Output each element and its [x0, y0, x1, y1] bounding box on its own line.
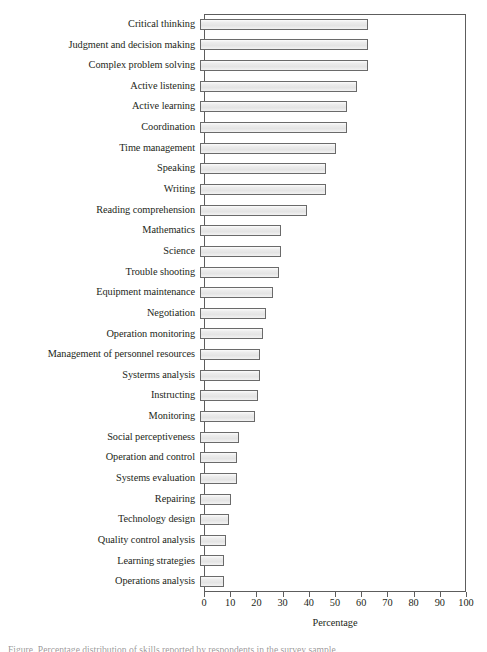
bar: [200, 60, 368, 71]
bar-track: [200, 138, 487, 159]
chart-row: Systerms analysis: [0, 365, 487, 386]
bar: [200, 576, 224, 587]
chart-row: Critical thinking: [0, 14, 487, 35]
bar-track: [200, 262, 487, 283]
chart-row: Operations analysis: [0, 571, 487, 592]
bar-track: [200, 303, 487, 324]
category-label: Science: [0, 246, 200, 257]
bar-track: [200, 468, 487, 489]
bar-track: [200, 14, 487, 35]
bar-track: [200, 406, 487, 427]
chart-row: Technology design: [0, 509, 487, 530]
category-label: Management of personnel resources: [0, 349, 200, 360]
chart-row: Repairing: [0, 489, 487, 510]
category-label: Operation and control: [0, 452, 200, 463]
bar-track: [200, 35, 487, 56]
category-label: Coordination: [0, 122, 200, 133]
chart-row: Coordination: [0, 117, 487, 138]
chart-row: Writing: [0, 179, 487, 200]
bar-track: [200, 179, 487, 200]
bar: [200, 308, 266, 319]
category-label: Trouble shooting: [0, 267, 200, 278]
x-tick-label: 70: [382, 598, 392, 608]
chart-row: Equipment maintenance: [0, 282, 487, 303]
category-label: Time management: [0, 143, 200, 154]
category-label: Repairing: [0, 494, 200, 505]
bar-track: [200, 97, 487, 118]
bar: [200, 473, 237, 484]
bar-track: [200, 447, 487, 468]
bar-track: [200, 551, 487, 572]
category-label: Mathematics: [0, 225, 200, 236]
bar: [200, 101, 347, 112]
category-label: Systerms analysis: [0, 370, 200, 381]
x-axis-title: Percentage: [204, 617, 466, 628]
chart-row: Systems evaluation: [0, 468, 487, 489]
category-label: Judgment and decision making: [0, 40, 200, 51]
category-label: Complex problem solving: [0, 60, 200, 71]
chart-row: Instructing: [0, 386, 487, 407]
x-tick-label: 80: [408, 598, 418, 608]
chart-row: Active listening: [0, 76, 487, 97]
bar: [200, 555, 224, 566]
bar-track: [200, 55, 487, 76]
chart-row: Social perceptiveness: [0, 427, 487, 448]
bar-chart-figure: Critical thinkingJudgment and decision m…: [0, 0, 487, 652]
bar-track: [200, 509, 487, 530]
chart-row: Quality control analysis: [0, 530, 487, 551]
bar: [200, 514, 229, 525]
x-tick-label: 100: [458, 598, 473, 608]
bar: [200, 432, 239, 443]
bar-track: [200, 324, 487, 345]
category-label: Learning strategies: [0, 556, 200, 567]
figure-caption: Figure. Percentage distribution of skill…: [0, 644, 487, 652]
bar: [200, 452, 237, 463]
bar: [200, 370, 260, 381]
bar: [200, 163, 326, 174]
x-tick-label: 50: [330, 598, 340, 608]
bar-track: [200, 344, 487, 365]
bar-track: [200, 427, 487, 448]
chart-row: Science: [0, 241, 487, 262]
x-tick-label: 90: [435, 598, 445, 608]
category-label: Monitoring: [0, 411, 200, 422]
chart-row: Judgment and decision making: [0, 35, 487, 56]
bar: [200, 205, 307, 216]
bar: [200, 267, 279, 278]
chart-row: Speaking: [0, 158, 487, 179]
bar: [200, 328, 263, 339]
chart-row: Operation monitoring: [0, 324, 487, 345]
x-tick-label: 10: [225, 598, 235, 608]
chart-row: Management of personnel resources: [0, 344, 487, 365]
bar-track: [200, 241, 487, 262]
x-tick-label: 40: [304, 598, 314, 608]
bar-track: [200, 76, 487, 97]
chart-row: Active learning: [0, 97, 487, 118]
bar-track: [200, 365, 487, 386]
category-label: Reading comprehension: [0, 205, 200, 216]
chart-row: Negotiation: [0, 303, 487, 324]
bar-track: [200, 530, 487, 551]
category-label: Quality control analysis: [0, 535, 200, 546]
category-label: Writing: [0, 184, 200, 195]
x-tick-label: 60: [356, 598, 366, 608]
category-label: Negotiation: [0, 308, 200, 319]
chart-row: Learning strategies: [0, 551, 487, 572]
category-label: Systems evaluation: [0, 473, 200, 484]
bar: [200, 287, 273, 298]
chart-row: Operation and control: [0, 447, 487, 468]
chart-row: Mathematics: [0, 220, 487, 241]
chart-row: Time management: [0, 138, 487, 159]
bar-track: [200, 158, 487, 179]
bar: [200, 535, 226, 546]
category-label: Operation monitoring: [0, 329, 200, 340]
bar: [200, 81, 357, 92]
category-label: Critical thinking: [0, 19, 200, 30]
bar: [200, 349, 260, 360]
bar: [200, 19, 368, 30]
bar: [200, 411, 255, 422]
chart-row: Reading comprehension: [0, 200, 487, 221]
bar-track: [200, 386, 487, 407]
bar-track: [200, 571, 487, 592]
x-tick-label: 30: [277, 598, 287, 608]
